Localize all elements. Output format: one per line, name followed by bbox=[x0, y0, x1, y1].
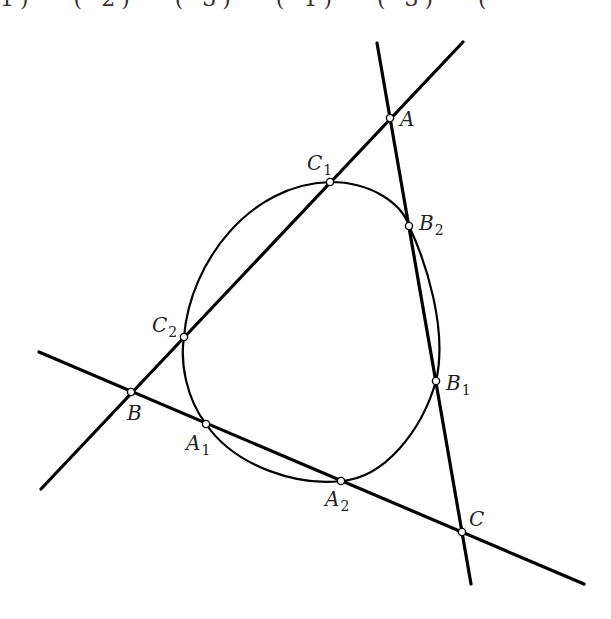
point-b bbox=[127, 388, 134, 395]
point-b2 bbox=[405, 222, 412, 229]
point-c bbox=[458, 528, 465, 535]
point-a bbox=[386, 114, 393, 121]
oval-curve bbox=[183, 182, 440, 482]
label-b: B bbox=[126, 401, 142, 425]
label-c1: C1 bbox=[307, 151, 332, 178]
label-a1: A1 bbox=[184, 431, 210, 458]
labels-layer: ABCA1A2B1B2C1C2 bbox=[126, 107, 484, 531]
label-c2: C2 bbox=[152, 313, 177, 340]
line-bc bbox=[39, 352, 584, 584]
label-c: C bbox=[469, 507, 484, 531]
geometry-diagram: ABCA1A2B1B2C1C2 bbox=[0, 0, 611, 619]
point-b1 bbox=[432, 377, 439, 384]
point-c2 bbox=[180, 333, 187, 340]
label-b2: B2 bbox=[418, 211, 444, 238]
point-a2 bbox=[337, 477, 344, 484]
point-a1 bbox=[202, 420, 209, 427]
point-c1 bbox=[326, 178, 333, 185]
label-a2: A2 bbox=[323, 487, 349, 514]
points-layer bbox=[127, 114, 465, 535]
label-a: A bbox=[398, 107, 414, 131]
label-b1: B1 bbox=[445, 371, 471, 398]
